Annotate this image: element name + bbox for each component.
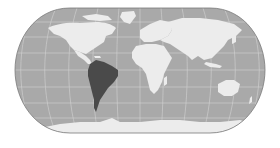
world-map-svg — [0, 0, 280, 148]
region-caribbean — [94, 56, 101, 58]
world-map — [0, 0, 280, 148]
